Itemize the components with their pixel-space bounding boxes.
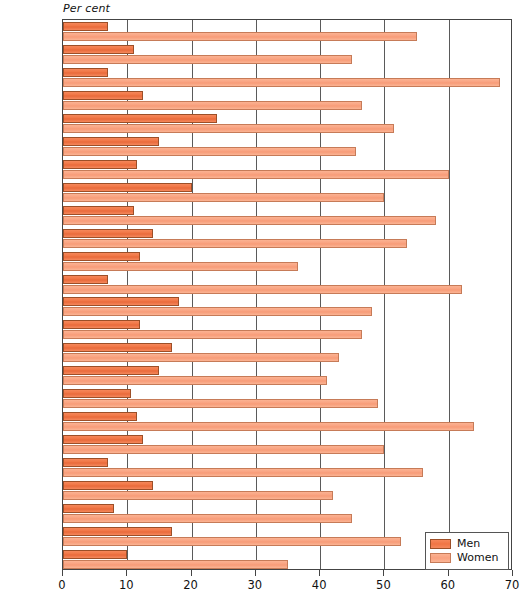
legend-item-men[interactable]: Men xyxy=(430,537,504,550)
tick-30 xyxy=(255,570,256,576)
bar-group xyxy=(63,112,511,135)
plot-area xyxy=(62,19,512,570)
bar-women[interactable] xyxy=(63,537,401,546)
bar-men[interactable] xyxy=(63,114,217,123)
bar-women[interactable] xyxy=(63,239,407,248)
x-tick-label-0: 0 xyxy=(58,578,65,592)
x-tick-label-70: 70 xyxy=(505,578,520,592)
x-tick-label-30: 30 xyxy=(248,578,263,592)
bar-women[interactable] xyxy=(63,399,378,408)
bar-women[interactable] xyxy=(63,262,298,271)
bar-women[interactable] xyxy=(63,55,352,64)
bar-women[interactable] xyxy=(63,307,372,316)
bar-men[interactable] xyxy=(63,137,159,146)
bar-men[interactable] xyxy=(63,45,134,54)
axis-unit-caption: Per cent xyxy=(63,2,110,15)
bar-women[interactable] xyxy=(63,468,423,477)
bar-group xyxy=(63,135,511,158)
bar-group xyxy=(63,66,511,89)
x-tick-label-50: 50 xyxy=(376,578,391,592)
bar-men[interactable] xyxy=(63,229,153,238)
bar-men[interactable] xyxy=(63,320,140,329)
bar-men[interactable] xyxy=(63,68,108,77)
bar-men[interactable] xyxy=(63,160,137,169)
bar-women[interactable] xyxy=(63,285,462,294)
bar-men[interactable] xyxy=(63,389,131,398)
bar-women[interactable] xyxy=(63,560,288,569)
bar-men[interactable] xyxy=(63,206,134,215)
tick-40 xyxy=(319,570,320,576)
bar-women[interactable] xyxy=(63,445,384,454)
bar-chart: Per cent AlgeriaArgentinaBangladeshBrazi… xyxy=(0,0,525,601)
bar-group xyxy=(63,410,511,433)
bar-women[interactable] xyxy=(63,514,352,523)
bar-women[interactable] xyxy=(63,193,384,202)
bar-men[interactable] xyxy=(63,91,143,100)
bar-group xyxy=(63,273,511,296)
bar-men[interactable] xyxy=(63,343,172,352)
bar-men[interactable] xyxy=(63,22,108,31)
bar-group xyxy=(63,204,511,227)
bar-group xyxy=(63,227,511,250)
bar-group xyxy=(63,181,511,204)
bar-men[interactable] xyxy=(63,275,108,284)
bar-group xyxy=(63,433,511,456)
tick-10 xyxy=(126,570,127,576)
legend-swatch-women-icon xyxy=(430,553,451,563)
x-tick-label-10: 10 xyxy=(119,578,134,592)
bar-group xyxy=(63,20,511,43)
bar-women[interactable] xyxy=(63,147,356,156)
legend-label-women: Women xyxy=(457,551,498,564)
bar-women[interactable] xyxy=(63,216,436,225)
legend-label-men: Men xyxy=(457,537,480,550)
bar-women[interactable] xyxy=(63,330,362,339)
bar-women[interactable] xyxy=(63,353,339,362)
bar-men[interactable] xyxy=(63,550,127,559)
bar-men[interactable] xyxy=(63,252,140,261)
bar-group xyxy=(63,296,511,319)
legend-swatch-men-icon xyxy=(430,539,451,549)
bar-women[interactable] xyxy=(63,376,327,385)
x-tick-label-20: 20 xyxy=(183,578,198,592)
bar-rows xyxy=(63,20,511,569)
tick-70 xyxy=(512,570,513,576)
bar-group xyxy=(63,43,511,66)
bar-men[interactable] xyxy=(63,435,143,444)
bar-group xyxy=(63,364,511,387)
bar-group xyxy=(63,250,511,273)
bar-group xyxy=(63,341,511,364)
bar-group xyxy=(63,479,511,502)
x-tick-label-40: 40 xyxy=(312,578,327,592)
bar-men[interactable] xyxy=(63,504,114,513)
tick-60 xyxy=(448,570,449,576)
tick-0 xyxy=(62,570,63,576)
x-axis-tickmarks xyxy=(62,570,512,578)
bar-men[interactable] xyxy=(63,183,192,192)
bar-women[interactable] xyxy=(63,491,333,500)
bar-women[interactable] xyxy=(63,124,394,133)
bar-group xyxy=(63,502,511,525)
bar-group xyxy=(63,318,511,341)
bar-women[interactable] xyxy=(63,78,500,87)
bar-women[interactable] xyxy=(63,32,417,41)
legend: Men Women xyxy=(425,532,509,570)
bar-group xyxy=(63,89,511,112)
bar-group xyxy=(63,158,511,181)
bar-group xyxy=(63,387,511,410)
bar-men[interactable] xyxy=(63,481,153,490)
bar-men[interactable] xyxy=(63,527,172,536)
bar-men[interactable] xyxy=(63,297,179,306)
bar-men[interactable] xyxy=(63,366,159,375)
tick-20 xyxy=(191,570,192,576)
bar-women[interactable] xyxy=(63,101,362,110)
bar-women[interactable] xyxy=(63,422,474,431)
tick-50 xyxy=(383,570,384,576)
legend-item-women[interactable]: Women xyxy=(430,551,504,564)
bar-men[interactable] xyxy=(63,412,137,421)
bar-men[interactable] xyxy=(63,458,108,467)
x-tick-label-60: 60 xyxy=(440,578,455,592)
bar-group xyxy=(63,456,511,479)
bar-women[interactable] xyxy=(63,170,449,179)
